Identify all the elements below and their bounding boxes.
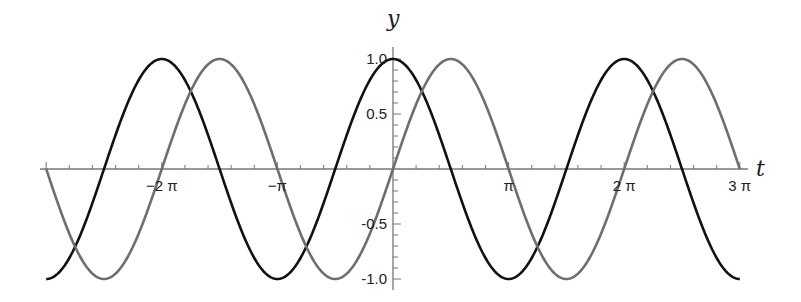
x-tick-label: π: [503, 177, 513, 194]
y-tick-label: 0.5: [366, 105, 387, 122]
x-tick-label: −2 π: [146, 177, 178, 194]
x-tick-label: 3 π: [728, 177, 751, 194]
y-tick-label: -1.0: [361, 270, 387, 287]
y-axis-label: y: [386, 6, 400, 31]
y-tick-label: 1.0: [366, 50, 387, 67]
y-tick-label: -0.5: [361, 215, 387, 232]
x-tick-label: 2 π: [613, 177, 636, 194]
chart-plot: −2 π−ππ2 π3 π1.00.5-0.5-1.0 t y: [0, 0, 801, 302]
x-tick-label: −π: [268, 177, 287, 194]
x-axis-label: t: [756, 156, 765, 181]
